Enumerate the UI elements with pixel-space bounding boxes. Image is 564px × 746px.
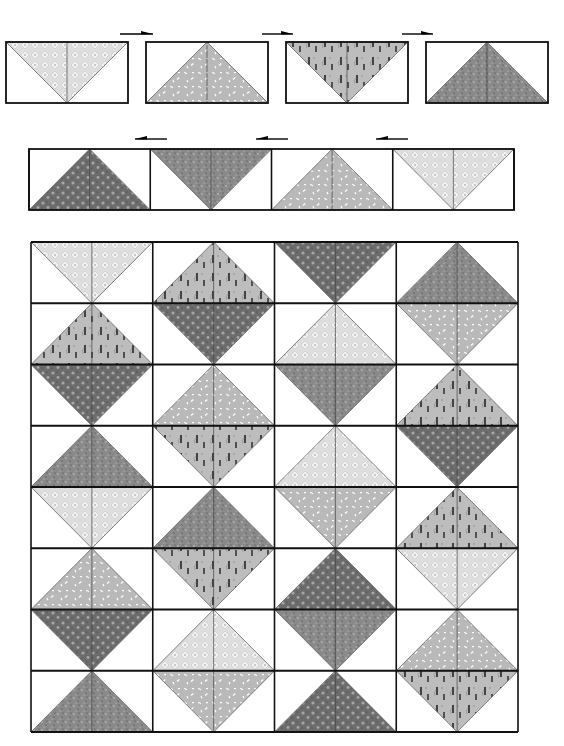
step1-block-2: [146, 42, 268, 103]
pressing-arrow-right: [262, 31, 293, 35]
grid-cell-r7-c4: [396, 610, 518, 671]
grid-cell-r3-c4: [396, 365, 518, 426]
grid-cell-r1-c1: [31, 242, 153, 303]
grid-cell-r1-c2: [153, 242, 275, 303]
grid-cell-r8-c3: [275, 671, 397, 732]
grid-cell-r8-c4: [396, 671, 518, 732]
step1-flying-geese-row: [6, 42, 548, 103]
step2-block-3: [272, 149, 393, 210]
pressing-arrow-left: [256, 136, 288, 140]
grid-cell-r3-c3: [275, 365, 397, 426]
pressing-arrow-right: [402, 31, 433, 35]
quilt-top-grid: [31, 242, 518, 732]
grid-cell-r6-c4: [396, 548, 518, 609]
grid-cell-r6-c1: [31, 548, 153, 609]
grid-cell-r7-c3: [275, 610, 397, 671]
grid-cell-r3-c2: [153, 365, 275, 426]
pressing-arrow-left: [376, 136, 408, 140]
grid-cell-r5-c3: [275, 487, 397, 548]
quilt-diagram: [0, 0, 564, 746]
grid-cell-r4-c2: [153, 426, 275, 487]
grid-cell-r1-c3: [275, 242, 397, 303]
grid-cell-r5-c1: [31, 487, 153, 548]
grid-cell-r4-c3: [275, 426, 397, 487]
step1-pressing-arrows: [120, 31, 433, 35]
grid-cell-r2-c1: [31, 303, 153, 364]
step2-block-1: [29, 149, 150, 210]
grid-cell-r5-c4: [396, 487, 518, 548]
pressing-arrow-left: [135, 136, 167, 140]
step1-block-3: [286, 42, 408, 103]
grid-cell-r2-c4: [396, 303, 518, 364]
grid-cell-r2-c2: [153, 303, 275, 364]
grid-cell-r5-c2: [153, 487, 275, 548]
grid-cell-r4-c1: [31, 426, 153, 487]
step1-block-1: [6, 42, 128, 103]
step1-block-4: [426, 42, 548, 103]
grid-cell-r1-c4: [396, 242, 518, 303]
step2-block-4: [393, 149, 514, 210]
pressing-arrow-right: [120, 31, 153, 35]
grid-cell-r3-c1: [31, 365, 153, 426]
grid-cell-r8-c1: [31, 671, 153, 732]
grid-cell-r7-c1: [31, 610, 153, 671]
grid-cell-r8-c2: [153, 671, 275, 732]
grid-cell-r6-c3: [275, 548, 397, 609]
grid-cell-r7-c2: [153, 610, 275, 671]
step2-pressing-arrows: [135, 136, 408, 140]
grid-cell-r2-c3: [275, 303, 397, 364]
grid-cell-r6-c2: [153, 548, 275, 609]
step2-block-2: [150, 149, 271, 210]
grid-cell-r4-c4: [396, 426, 518, 487]
step2-flying-geese-row: [29, 149, 514, 210]
